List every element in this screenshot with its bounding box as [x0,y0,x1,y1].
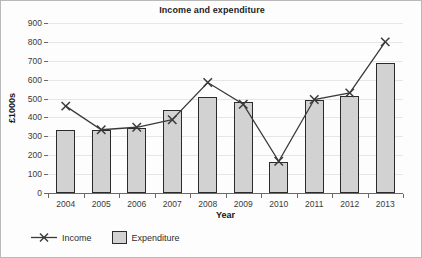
chart-title: Income and expenditure [1,5,422,15]
x-tick-mark [48,194,49,198]
chart-container: Income and expenditure £1000s 0100200300… [0,0,422,258]
y-tick-label: 800 [28,37,42,47]
x-axis-title: Year [48,210,403,220]
x-tick-label-2004: 2004 [56,199,75,209]
x-tick-label-2006: 2006 [127,199,146,209]
y-tick-label: 900 [28,18,42,28]
income-marker-2004[interactable]: 2004: 460 [62,102,70,110]
x-tick-mark [226,194,227,198]
x-tick-mark [84,194,85,198]
legend-entry-expenditure: Expenditure [112,231,180,244]
expenditure-swatch-icon [112,231,127,244]
x-tick-mark [297,194,298,198]
x-tick-mark [403,194,404,198]
x-tick-mark [368,194,369,198]
income-line-marker-icon [31,232,57,243]
plot-area: 0100200300400500600700800900 2004: 46020… [48,23,403,193]
x-tick-label-2012: 2012 [340,199,359,209]
y-tick-label: 0 [37,188,42,198]
x-tick-mark [119,194,120,198]
x-tick-mark [332,194,333,198]
y-tick-label: 700 [28,56,42,66]
chart-legend: Income Expenditure [31,231,180,244]
x-tick-label-2011: 2011 [305,199,323,209]
income-line-path [66,42,386,161]
y-tick-label: 100 [28,169,42,179]
x-tick-mark [190,194,191,198]
y-tick-label: 300 [28,131,42,141]
legend-label-income: Income [62,233,92,243]
line-series-income: 2004: 4602005: 3352006: 3482007: 3882008… [48,23,403,193]
legend-entry-income: Income [31,232,92,243]
legend-label-expenditure: Expenditure [132,233,180,243]
income-marker-2009[interactable]: 2009: 470 [239,100,247,108]
x-tick-mark [261,194,262,198]
y-axis-title: £1000s [5,23,19,193]
x-tick-label-2009: 2009 [234,199,253,209]
x-tick-label-2005: 2005 [92,199,111,209]
y-tick-label: 200 [28,150,42,160]
y-axis-title-label: £1000s [7,93,17,123]
x-tick-label-2010: 2010 [269,199,288,209]
y-tick-label: 600 [28,75,42,85]
x-tick-label-2013: 2013 [376,199,395,209]
income-marker-2013[interactable]: 2013: 800 [381,38,389,46]
x-tick-label-2007: 2007 [163,199,182,209]
income-marker-2010[interactable]: 2010: 168 [275,157,283,165]
income-marker-2008[interactable]: 2008: 585 [204,78,212,86]
y-tick-label: 500 [28,94,42,104]
x-tick-label-2008: 2008 [198,199,217,209]
x-tick-mark [155,194,156,198]
x-axis: 2004200520062007200820092010201120122013 [48,194,403,210]
y-tick-label: 400 [28,112,42,122]
